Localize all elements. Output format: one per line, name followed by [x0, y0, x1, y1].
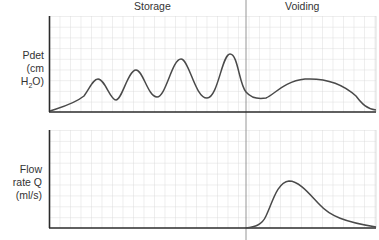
urodynamic-charts — [0, 0, 379, 240]
pdet-grid — [49, 16, 376, 112]
flow-grid — [49, 130, 376, 228]
